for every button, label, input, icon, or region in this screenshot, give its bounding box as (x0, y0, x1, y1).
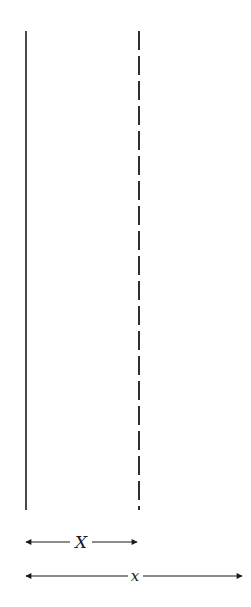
diagram-svg: X x (0, 0, 251, 607)
dimension-label-X: X (73, 532, 88, 552)
diagram-canvas: X x (0, 0, 251, 607)
dimension-label-x: x (131, 567, 140, 585)
